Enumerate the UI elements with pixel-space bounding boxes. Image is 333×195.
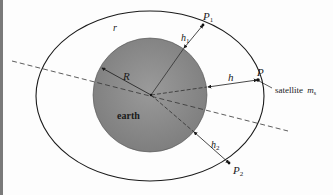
h-label: h [228, 71, 234, 83]
orbit-label: r [113, 22, 117, 33]
h2-label: h2 [211, 139, 220, 152]
p1-label: P1 [202, 10, 214, 24]
radius-label: R [122, 70, 130, 82]
satellite-label: satellite ms [275, 85, 317, 96]
p2-label: P2 [232, 164, 244, 178]
p-label: P [256, 66, 264, 78]
point-p2-dot [228, 162, 231, 165]
earth-center-dot [150, 94, 152, 96]
point-p1-dot [202, 24, 205, 27]
orbit-diagram: r earth R h1 h h2 P1 P P2 satellite ms [0, 0, 333, 195]
point-p-dot [256, 78, 260, 82]
diagram-canvas: r earth R h1 h h2 P1 P P2 satellite ms [0, 0, 333, 195]
earth-label: earth [117, 110, 140, 121]
satellite-pointer [259, 81, 272, 88]
h1-label: h1 [181, 32, 190, 45]
